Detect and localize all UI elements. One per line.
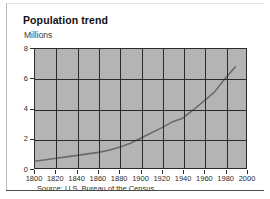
grid-line-vertical	[142, 49, 143, 168]
y-axis-tick-label: 0	[12, 165, 28, 174]
grid-line-vertical	[163, 49, 164, 168]
x-axis-tick-mark	[55, 170, 56, 174]
card-bottom-rule	[6, 190, 264, 191]
y-axis-tick-mark	[30, 48, 34, 49]
x-axis-tick-mark	[141, 170, 142, 174]
x-axis-tick-mark	[98, 170, 99, 174]
source-note: Source: U.S. Bureau of the Census	[37, 184, 154, 193]
x-axis-tick-mark	[162, 170, 163, 174]
grid-line-horizontal	[35, 140, 246, 141]
figure-card: Population trend Millions Source: U.S. B…	[6, 3, 264, 191]
page-title: Population trend	[23, 14, 108, 26]
grid-line-vertical	[78, 49, 79, 168]
x-axis-tick-mark	[34, 170, 35, 174]
plot-area	[34, 48, 247, 169]
y-axis-tick-label: 4	[12, 104, 28, 113]
grid-line-vertical	[120, 49, 121, 168]
x-axis-tick-label: 2000	[234, 174, 260, 183]
x-axis-tick-mark	[183, 170, 184, 174]
y-axis-tick-mark	[30, 139, 34, 140]
x-axis-tick-mark	[77, 170, 78, 174]
y-axis-tick-label: 6	[12, 74, 28, 83]
y-axis-tick-label: 8	[12, 44, 28, 53]
y-axis-tick-mark	[30, 109, 34, 110]
grid-line-horizontal	[35, 110, 246, 111]
grid-line-vertical	[184, 49, 185, 168]
grid-line-vertical	[227, 49, 228, 168]
grid-line-horizontal	[35, 79, 246, 80]
x-axis-tick-mark	[204, 170, 205, 174]
grid-line-vertical	[205, 49, 206, 168]
grid-line-vertical	[99, 49, 100, 168]
y-axis-label: Millions	[24, 30, 52, 40]
y-axis-tick-mark	[30, 78, 34, 79]
x-axis-tick-mark	[247, 170, 248, 174]
y-axis-tick-label: 2	[12, 134, 28, 143]
data-series-line	[35, 49, 246, 168]
x-axis-tick-mark	[226, 170, 227, 174]
x-axis-tick-mark	[119, 170, 120, 174]
grid-line-vertical	[56, 49, 57, 168]
